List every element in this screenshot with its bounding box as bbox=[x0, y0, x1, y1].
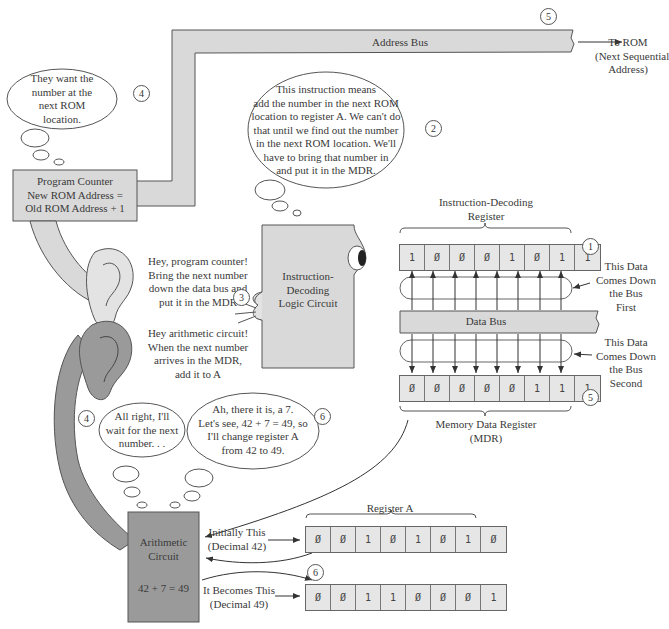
bit-cell: Ø bbox=[475, 376, 500, 401]
register-to-arithmetic-arrow bbox=[206, 553, 312, 563]
instruction-register-title: Instruction-Decoding Register bbox=[420, 196, 552, 223]
bit-cell: 1 bbox=[525, 376, 550, 401]
bit-cell: Ø bbox=[431, 585, 456, 610]
instruction-register: 1 Ø Ø Ø 1 Ø 1 1 bbox=[399, 244, 601, 271]
bit-cell: 1 bbox=[356, 585, 381, 610]
bit-cell: Ø bbox=[306, 527, 331, 552]
step-3-decoder: 3 bbox=[233, 289, 250, 306]
bit-cell: 1 bbox=[400, 245, 425, 270]
step-4-arithmetic: 4 bbox=[78, 410, 95, 427]
bit-cell: Ø bbox=[400, 376, 425, 401]
step-5-address: 5 bbox=[540, 8, 557, 25]
mdr-title: Memory Data Register (MDR) bbox=[420, 418, 552, 445]
bit-cell: 1 bbox=[550, 245, 575, 270]
bit-cell: Ø bbox=[425, 245, 450, 270]
decoder-thought-text: This instruction means add the number in… bbox=[250, 83, 402, 178]
memory-data-register: Ø Ø Ø Ø Ø 1 1 1 bbox=[399, 375, 601, 402]
arithmetic-circuit-box bbox=[128, 512, 199, 622]
step-6-register: 6 bbox=[307, 564, 324, 581]
step-2-decoder: 2 bbox=[425, 120, 442, 137]
second-data-arrow bbox=[574, 354, 592, 355]
first-data-note: This Data Comes Down the Bus First bbox=[592, 260, 660, 314]
eye-icon bbox=[348, 246, 366, 270]
change-thought-text: Ah, there it is, a 7. Let's see, 42 + 7 … bbox=[187, 403, 319, 457]
bit-cell: Ø bbox=[456, 585, 481, 610]
step-5-mdr: 5 bbox=[582, 389, 599, 406]
bit-cell: Ø bbox=[406, 585, 431, 610]
register-a-initial: Ø Ø 1 Ø 1 Ø 1 Ø bbox=[305, 526, 507, 553]
wait-thought-text: All right, I'll wait for the next number… bbox=[99, 410, 185, 451]
speech-to-arithmetic: Hey arithmetic circuit! When the next nu… bbox=[146, 327, 250, 381]
arithmetic-to-register-arrow bbox=[202, 572, 312, 580]
bit-cell: Ø bbox=[381, 527, 406, 552]
bit-cell: 1 bbox=[481, 585, 506, 610]
bit-cell: Ø bbox=[500, 376, 525, 401]
bit-cell: Ø bbox=[481, 527, 506, 552]
bit-cell: Ø bbox=[331, 527, 356, 552]
step-1-instruction: 1 bbox=[582, 238, 599, 255]
arithmetic-equation: 42 + 7 = 49 bbox=[128, 582, 199, 596]
bit-cell: 1 bbox=[500, 245, 525, 270]
step-6-arithmetic: 6 bbox=[314, 408, 331, 425]
step-4-pc: 4 bbox=[133, 85, 150, 102]
ear-icon-light bbox=[86, 249, 133, 328]
bit-cell: Ø bbox=[450, 245, 475, 270]
lower-data-loop bbox=[400, 340, 572, 362]
arithmetic-circuit-label: Arithmetic Circuit bbox=[128, 536, 199, 563]
bit-cell: 1 bbox=[356, 527, 381, 552]
bit-cell: Ø bbox=[306, 585, 331, 610]
bit-cell: Ø bbox=[431, 527, 456, 552]
register-a-final: Ø Ø 1 1 Ø Ø Ø 1 bbox=[305, 584, 507, 611]
bit-cell: 1 bbox=[550, 376, 575, 401]
bit-cell: Ø bbox=[475, 245, 500, 270]
ear-icon-dark bbox=[79, 321, 131, 399]
pc-thought-text: They want the number at the next ROM loc… bbox=[15, 72, 109, 126]
mdr-brace bbox=[400, 406, 571, 416]
initial-label: Initially This (Decimal 42) bbox=[200, 526, 274, 553]
register-a-title: Register A bbox=[340, 502, 440, 516]
data-bus-label: Data Bus bbox=[400, 315, 572, 329]
bit-cell: 1 bbox=[381, 585, 406, 610]
upper-data-loop bbox=[400, 277, 572, 299]
second-data-note: This Data Comes Down the Bus Second bbox=[592, 336, 660, 390]
first-data-arrow bbox=[573, 283, 590, 288]
program-counter-text: Program Counter New ROM Address = Old RO… bbox=[13, 175, 137, 216]
to-rom-label: To ROM (Next Sequential Address) bbox=[595, 36, 661, 77]
bit-cell: Ø bbox=[450, 376, 475, 401]
instruction-register-brace bbox=[400, 223, 571, 233]
address-bus-label: Address Bus bbox=[300, 36, 500, 50]
bit-cell: 1 bbox=[456, 527, 481, 552]
bit-cell: Ø bbox=[525, 245, 550, 270]
decoder-circuit-text: Instruction- Decoding Logic Circuit bbox=[262, 270, 354, 311]
bit-cell: 1 bbox=[406, 527, 431, 552]
bit-cell: Ø bbox=[331, 585, 356, 610]
bit-cell: Ø bbox=[425, 376, 450, 401]
final-label: It Becomes This (Decimal 49) bbox=[198, 584, 280, 611]
